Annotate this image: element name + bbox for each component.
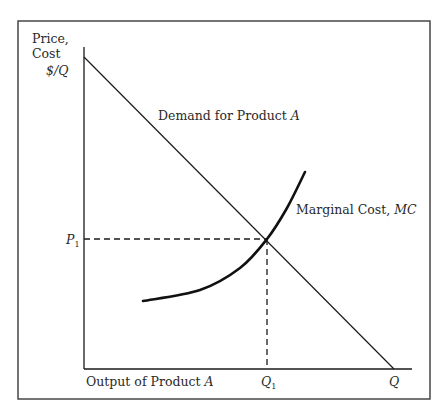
y-axis-unit: $/Q <box>46 63 68 78</box>
p1-label: P1 <box>65 232 80 249</box>
economics-diagram: Price, Cost $/Q Demand for Product A Mar… <box>0 0 446 418</box>
y-axis-label-line1: Price, <box>32 31 69 46</box>
q1-label: Q1 <box>261 374 276 391</box>
marginal-cost-label: Marginal Cost, MC <box>296 202 417 217</box>
y-axis-label-line2: Cost <box>32 46 61 61</box>
x-axis-label: Output of Product A <box>86 374 214 389</box>
q-intercept-label: Q <box>389 374 399 389</box>
demand-label: Demand for Product A <box>158 108 300 123</box>
marginal-cost-curve <box>143 172 305 301</box>
